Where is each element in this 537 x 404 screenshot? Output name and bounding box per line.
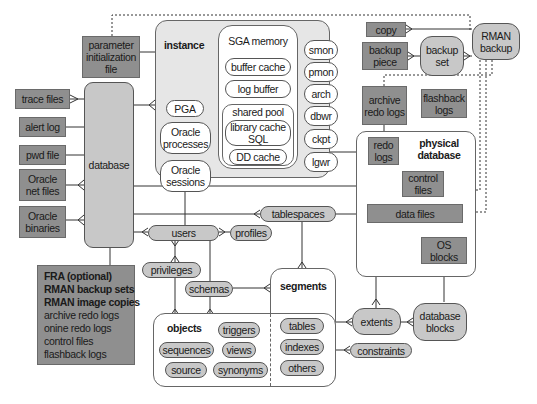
database-node[interactable]: database <box>84 82 134 248</box>
fra-item: control files <box>44 335 128 348</box>
fra-item: onine redo logs <box>44 322 128 335</box>
physical-database-title: physical database <box>414 137 464 161</box>
tablespaces[interactable]: tablespaces <box>260 206 336 222</box>
control-files[interactable]: control files <box>402 171 444 197</box>
pwd-file[interactable]: pwd file <box>19 145 66 165</box>
flashback-logs[interactable]: flashback logs <box>421 89 467 118</box>
segment-others[interactable]: others <box>280 360 324 376</box>
constraints[interactable]: constraints <box>350 343 412 358</box>
trace-files[interactable]: trace files <box>15 89 70 109</box>
process-ckpt[interactable]: ckpt <box>304 129 338 149</box>
profiles[interactable]: profiles <box>230 225 272 241</box>
backup-piece[interactable]: backup piece <box>362 42 408 70</box>
dd-cache[interactable]: DD cache <box>229 149 287 165</box>
process-lgwr[interactable]: lgwr <box>304 152 338 172</box>
schemas[interactable]: schemas <box>185 281 233 297</box>
oracle-binaries[interactable]: Oracle binaries <box>19 206 66 238</box>
library-cache[interactable]: library cache SQL <box>225 120 291 146</box>
oracle-processes[interactable]: Oracle processes <box>160 122 211 154</box>
object-synonyms[interactable]: synonyms <box>213 362 268 378</box>
object-triggers[interactable]: triggers <box>218 322 260 338</box>
segments-title: segments <box>280 280 327 292</box>
instance-title: instance <box>164 39 204 51</box>
database-blocks[interactable]: database blocks <box>413 303 467 341</box>
copy[interactable]: copy <box>366 22 406 37</box>
data-files[interactable]: data files <box>367 204 463 223</box>
oracle-sessions[interactable]: Oracle sessions <box>160 160 211 192</box>
segment-tables[interactable]: tables <box>280 318 324 334</box>
privileges[interactable]: privileges <box>142 262 201 278</box>
redo-logs[interactable]: redo logs <box>368 137 399 165</box>
segment-indexes[interactable]: indexes <box>280 339 324 355</box>
log-buffer[interactable]: log buffer <box>225 80 291 98</box>
fra-item: flashback logs <box>44 348 128 361</box>
process-smon[interactable]: smon <box>304 40 338 60</box>
extents[interactable]: extents <box>352 308 401 335</box>
process-pmon[interactable]: pmon <box>304 62 338 82</box>
oracle-net-files[interactable]: Oracle net files <box>19 169 66 201</box>
objects-segments-divider <box>270 314 271 386</box>
shared-pool-title: shared pool <box>222 105 294 119</box>
fra-item: RMAN image copies <box>44 296 128 309</box>
users[interactable]: users <box>148 225 219 241</box>
archive-redo-logs[interactable]: archive redo logs <box>362 86 407 125</box>
alert-log[interactable]: alert log <box>19 117 66 137</box>
fra-item: RMAN backup sets <box>44 283 128 296</box>
pga[interactable]: PGA <box>166 100 204 117</box>
rman-backup[interactable]: RMAN backup <box>472 23 520 60</box>
object-sequences[interactable]: sequences <box>159 342 214 358</box>
fra-title: FRA (optional) <box>44 270 128 283</box>
object-source[interactable]: source <box>165 362 207 378</box>
fra-box[interactable]: FRA (optional) RMAN backup sets RMAN ima… <box>37 265 135 365</box>
os-blocks[interactable]: OS blocks <box>421 237 467 264</box>
buffer-cache[interactable]: buffer cache <box>225 58 291 76</box>
objects-title: objects <box>167 322 202 334</box>
object-views[interactable]: views <box>222 342 256 358</box>
fra-item: archive redo logs <box>44 309 128 322</box>
process-dbwr[interactable]: dbwr <box>304 106 338 126</box>
parameter-file[interactable]: parameter initialization file <box>82 36 140 78</box>
sga-title: SGA memory <box>218 28 298 54</box>
backup-set[interactable]: backup set <box>420 36 464 76</box>
process-arch[interactable]: arch <box>304 84 338 104</box>
